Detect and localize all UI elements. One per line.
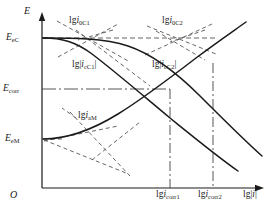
tafel-c2-cathodic-branch xyxy=(147,26,216,54)
tafel-m-extension-down xyxy=(70,112,130,176)
origin-label: O xyxy=(10,190,17,200)
pointer-i0c2 xyxy=(170,30,205,42)
annotation-lg-iam: lgiaM xyxy=(78,111,97,121)
y-axis-label: E xyxy=(24,6,30,16)
polarization-curves xyxy=(43,22,262,171)
y-tick-label-eem: EeM xyxy=(5,134,19,144)
annotation-lg-icc1: lg|icC1| xyxy=(72,60,96,70)
corrosion-current-droplines xyxy=(170,63,213,188)
tafel-m-extension-up xyxy=(92,122,140,160)
cathodic-curve-c2 xyxy=(43,38,262,156)
tafel-lines-cathodic-c2 xyxy=(145,24,216,60)
annotation-lg-i0c2: lgi0C2 xyxy=(162,16,183,26)
y-tick-label-ecorr: Ecorr xyxy=(3,84,19,94)
x-axis-label: lg|i| xyxy=(243,190,257,200)
plot-area xyxy=(0,0,278,216)
x-tick-label-corr1: lgicorr1 xyxy=(156,190,180,200)
anodic-curve-m xyxy=(43,22,246,139)
y-tick-label-eec: EeC xyxy=(6,33,19,43)
corrosion-points xyxy=(170,63,213,89)
tafel-lines-cathodic-c1 xyxy=(57,21,150,86)
x-tick-label-corr2: lgicorr2 xyxy=(198,190,222,200)
evans-diagram-figure: E EeC Ecorr EeM O lgicorr1 lgicorr2 lg|i… xyxy=(0,0,278,216)
tafel-c2-extension xyxy=(156,31,205,60)
y-axis-arrow xyxy=(39,12,45,21)
annotation-lg-i0c1: lgi0C1 xyxy=(69,16,90,26)
pointer-iam xyxy=(62,108,76,118)
tafel-m-cathodic-branch xyxy=(44,140,126,173)
annotation-lg-icc2: lg|icC2| xyxy=(152,60,176,70)
